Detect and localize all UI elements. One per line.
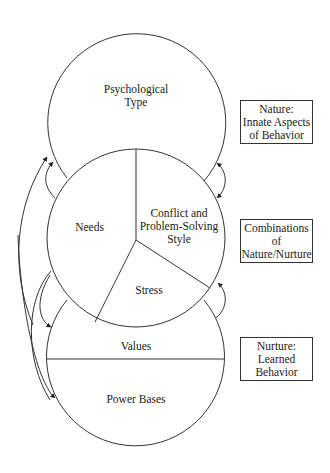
label-conflict-style: Conflict and Problem-Solving Style (137, 207, 221, 246)
label-needs: Needs (62, 221, 117, 234)
arrow-left-mid-down (40, 275, 51, 327)
label-power-bases: Power Bases (96, 393, 176, 406)
arrow-right-bottom (216, 283, 225, 318)
arrow-big-left-up (19, 157, 47, 325)
divider-conflict-stress (136, 240, 210, 288)
legend-box-nurture: Nurture: Learned Behavior (240, 337, 313, 381)
label-stress: Stress (124, 284, 174, 297)
divider-needs-stress (95, 240, 136, 322)
legend-box-combinations: Combinations of Nature/Nurture (240, 219, 313, 263)
bottom-circle (46, 300, 224, 446)
label-values: Values (106, 340, 166, 353)
label-psychological-type: Psychological Type (86, 83, 186, 109)
arrow-right-top (217, 163, 225, 198)
arc-left-bottom-outer (31, 271, 51, 400)
legend-box-nature: Nature: Innate Aspects of Behavior (240, 100, 313, 144)
arrow-left-small-up (46, 162, 55, 198)
